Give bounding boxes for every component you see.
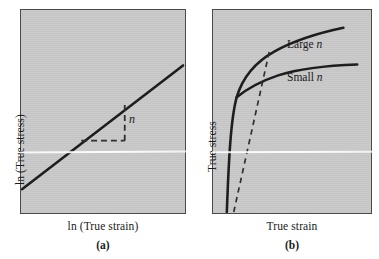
large-n-curve [227,28,344,212]
small-n-label-symbol: n [317,71,323,83]
figure-work-hardening: n Large n Small n ln (True stress) ln (T… [0,0,379,259]
plot-a-graphics [21,10,185,213]
panel-caption-b: (b) [212,239,372,251]
large-n-label-prefix: Large [287,38,316,50]
large-n-label-symbol: n [316,38,322,50]
axis-label-x-panel-a: ln (True strain) [20,220,186,232]
axis-label-y-panel-b: True stress [206,121,218,172]
panel-caption-a: (a) [20,239,186,251]
elastic-unloading-dashed-line [234,52,270,212]
axis-label-x-panel-b: True strain [212,220,372,232]
slope-exponent-label: n [129,113,135,125]
flow-curve-line-a [22,65,183,189]
small-n-label-prefix: Small [287,71,317,83]
small-n-label: Small n [287,72,322,84]
plot-panel-a [20,9,186,214]
large-n-label: Large n [287,39,322,51]
axis-label-y-panel-a: ln (True stress) [14,114,26,185]
